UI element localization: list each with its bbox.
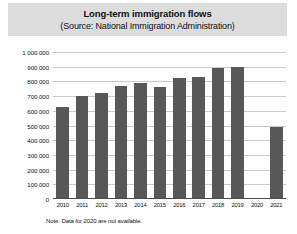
y-axis-tick-label: 700 000 — [27, 93, 49, 100]
page-title: Long-term immigration flows — [83, 8, 211, 20]
x-axis-tick-label: 2012 — [92, 202, 111, 214]
y-axis-tick-label: 800 000 — [27, 78, 49, 85]
bar-slot[interactable] — [72, 52, 91, 199]
bar-slot[interactable] — [131, 52, 150, 199]
chart-title-band: Long-term immigration flows (Source: Nat… — [8, 3, 287, 36]
bar[interactable] — [192, 77, 205, 199]
chart-footnote: Note: Data for 2020 are not available. — [46, 218, 142, 224]
plot-wrapper: 0100 000200 000300 000400 000500 000600 … — [0, 40, 297, 210]
bar[interactable] — [134, 83, 147, 199]
bar[interactable] — [231, 67, 244, 199]
x-axis-tick-label: 2021 — [267, 202, 286, 214]
bar-slot[interactable] — [170, 52, 189, 199]
x-axis-tick-label: 2017 — [189, 202, 208, 214]
bar-slot[interactable] — [150, 52, 169, 199]
bar-slot[interactable] — [228, 52, 247, 199]
bar-slot[interactable] — [247, 52, 266, 199]
x-axis-tick-label: 2013 — [111, 202, 130, 214]
y-axis-labels: 0100 000200 000300 000400 000500 000600 … — [0, 40, 52, 192]
bar-slot[interactable] — [111, 52, 130, 199]
x-axis-tick-label: 2011 — [72, 202, 91, 214]
x-axis-line — [53, 198, 286, 199]
x-axis-labels: 2010201120122013201420152016201720182019… — [53, 202, 286, 214]
y-axis-tick-label: 0 — [46, 196, 49, 203]
y-axis-tick-label: 1 000 000 — [22, 49, 49, 56]
bar[interactable] — [212, 68, 225, 199]
x-axis-tick-label: 2014 — [131, 202, 150, 214]
bar[interactable] — [173, 78, 186, 199]
bar-series — [53, 52, 286, 199]
bar[interactable] — [56, 107, 69, 199]
bar-slot[interactable] — [53, 52, 72, 199]
chart-source-subtitle: (Source: National Immigration Administra… — [60, 20, 234, 32]
x-axis-tick-label: 2020 — [247, 202, 266, 214]
bar[interactable] — [154, 87, 167, 199]
plot-area — [53, 52, 286, 199]
y-axis-tick-label: 100 000 — [27, 181, 49, 188]
bar[interactable] — [76, 96, 89, 199]
bar-slot[interactable] — [208, 52, 227, 199]
bar[interactable] — [270, 127, 283, 199]
bar[interactable] — [115, 86, 128, 199]
x-axis-tick-label: 2015 — [150, 202, 169, 214]
y-axis-tick-label: 500 000 — [27, 122, 49, 129]
y-axis-tick-label: 400 000 — [27, 137, 49, 144]
x-axis-tick-label: 2016 — [170, 202, 189, 214]
y-axis-tick-label: 900 000 — [27, 63, 49, 70]
y-axis-tick-label: 600 000 — [27, 107, 49, 114]
bar-slot[interactable] — [267, 52, 286, 199]
y-axis-tick-label: 300 000 — [27, 151, 49, 158]
bar[interactable] — [95, 93, 108, 199]
x-axis-tick-label: 2010 — [53, 202, 72, 214]
y-axis-tick-label: 200 000 — [27, 166, 49, 173]
bar-slot[interactable] — [189, 52, 208, 199]
x-axis-tick-label: 2018 — [208, 202, 227, 214]
bar-slot[interactable] — [92, 52, 111, 199]
x-axis-tick-label: 2019 — [228, 202, 247, 214]
chart-figure: Long-term immigration flows (Source: Nat… — [0, 0, 297, 234]
